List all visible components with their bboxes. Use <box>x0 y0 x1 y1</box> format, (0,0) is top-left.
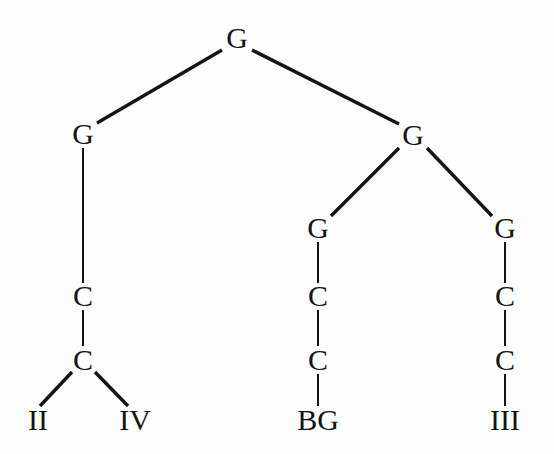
tree-edge-r1-to-r2a <box>331 148 399 216</box>
tree-node-rC1: C <box>495 281 515 311</box>
tree-leaf-leaf-iii: III <box>490 405 520 435</box>
tree-edge-root-to-r1 <box>252 50 399 124</box>
tree-edge-root-to-l1 <box>97 50 222 123</box>
tree-diagram: GGGGGCCCCCCIIIVBGIII <box>0 0 554 454</box>
tree-node-lC1: C <box>73 281 93 311</box>
tree-edge-lC2-to-leaf-iv <box>95 372 128 406</box>
tree-edge-r1-to-r2b <box>427 148 492 216</box>
tree-leaf-leaf-iv: IV <box>119 405 151 435</box>
tree-leaf-leaf-ii: II <box>28 405 48 435</box>
tree-node-rC2: C <box>495 345 515 375</box>
tree-edges-layer <box>0 0 554 454</box>
tree-node-lC2: C <box>73 345 93 375</box>
tree-node-r2b: G <box>494 213 516 243</box>
tree-node-l1: G <box>72 119 94 149</box>
tree-node-mC2: C <box>308 345 328 375</box>
tree-node-r1: G <box>402 120 424 150</box>
tree-leaf-leaf-bg: BG <box>297 405 339 435</box>
tree-edge-lC2-to-leaf-ii <box>40 372 72 406</box>
tree-node-r2a: G <box>307 213 329 243</box>
tree-node-mC1: C <box>308 281 328 311</box>
tree-node-root: G <box>226 23 248 53</box>
